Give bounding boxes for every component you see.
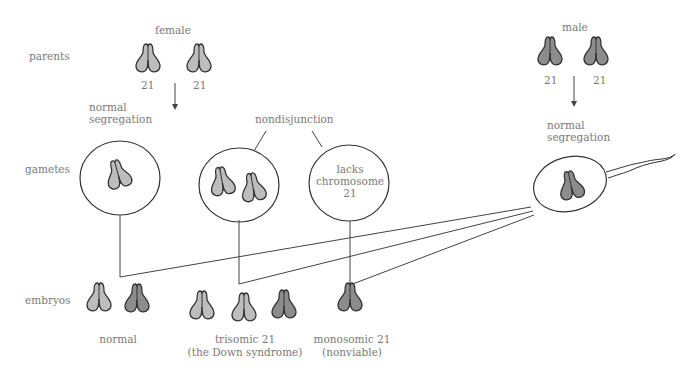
male-chromosome-21-a: [538, 37, 562, 65]
outcome-normal-label: normal: [99, 333, 137, 346]
male-chromosomes: [538, 37, 608, 65]
male-chromosome-21-b: [584, 37, 608, 65]
egg-normal-chromosome: [103, 157, 133, 190]
outcome-trisomic-sublabel: (the Down syndrome): [188, 346, 303, 359]
female-title: female: [155, 24, 191, 37]
female-arrow-head-icon: [172, 104, 178, 110]
row-label-gametes: gametes: [25, 163, 70, 176]
egg-disomic-chromosome-b: [239, 171, 267, 203]
embryo-trisomic: [190, 290, 296, 321]
female-chromosome-21-a: [136, 44, 160, 72]
embryo-monosomic: [338, 283, 362, 311]
row-label-embryos: embryos: [25, 294, 71, 307]
male-chromosome-label-b: 21: [593, 74, 606, 87]
egg-disomic: [199, 148, 279, 222]
male-title: male: [562, 21, 588, 34]
line-trisomic: [239, 211, 533, 284]
female-chromosome-label-b: 21: [193, 79, 206, 92]
embryo-normal: [87, 283, 149, 312]
male-chromosome-label-a: 21: [544, 74, 557, 87]
female-process-line2: segregation: [89, 113, 152, 126]
nondisjunction-label: nondisjunction: [255, 113, 334, 126]
line-normal: [120, 207, 531, 277]
female-chromosomes: [136, 44, 211, 72]
empty-gamete-line3: 21: [343, 187, 356, 200]
nondisjunction-line-left: [254, 131, 266, 151]
sperm-chromosome: [556, 169, 585, 201]
outcome-monosomic-label: monosomic 21: [314, 333, 391, 346]
sperm: [527, 148, 675, 219]
female-chromosome-label-a: 21: [141, 79, 154, 92]
female-chromosome-21-b: [187, 44, 211, 72]
fertilization-lines: [120, 207, 534, 285]
outcome-monosomic-sublabel: (nonviable): [322, 346, 382, 359]
nondisjunction-line-right: [312, 131, 322, 147]
egg-disomic-chromosome-a: [208, 165, 236, 197]
male-arrow-head-icon: [571, 101, 577, 107]
male-process-line2: segregation: [547, 131, 610, 144]
row-label-parents: parents: [29, 50, 70, 63]
outcome-trisomic-label: trisomic 21: [215, 333, 275, 346]
